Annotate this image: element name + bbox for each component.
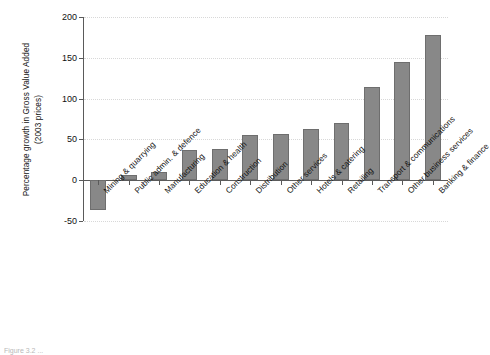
- gridline: [84, 58, 448, 59]
- y-tick-label: 0: [72, 175, 77, 185]
- x-tick-mark: [159, 180, 160, 185]
- x-tick-mark: [250, 180, 251, 185]
- x-tick-mark: [433, 180, 434, 185]
- x-tick-mark: [311, 180, 312, 185]
- plot-area: -50050100150200 Mining & quarryingPublic…: [83, 17, 448, 221]
- y-tick-label: 100: [62, 94, 77, 104]
- y-tick-label: -50: [64, 216, 77, 226]
- x-tick-label: Education & health: [193, 140, 249, 196]
- figure-caption: Figure 3.2 ...: [4, 347, 43, 355]
- y-axis-title: Percentage growth in Gross Value Added (…: [21, 10, 44, 230]
- y-tick-mark: [79, 221, 83, 222]
- x-tick-mark: [372, 180, 373, 185]
- x-tick-mark: [281, 180, 282, 185]
- gridline: [84, 99, 448, 100]
- y-axis-title-line-2: (2003 prices): [33, 95, 42, 144]
- y-tick-mark: [79, 17, 83, 18]
- y-tick-mark: [79, 180, 83, 181]
- y-tick-label: 200: [62, 12, 77, 22]
- y-axis-line: [83, 17, 84, 221]
- gridline: [84, 221, 448, 222]
- y-tick-mark: [79, 99, 83, 100]
- x-tick-label: Mining & quarrying: [102, 140, 157, 195]
- x-tick-mark: [98, 180, 99, 185]
- x-tick-mark: [189, 180, 190, 185]
- y-tick-label: 50: [67, 134, 77, 144]
- x-tick-mark: [220, 180, 221, 185]
- y-axis-title-line-1: Percentage growth in Gross Value Added: [22, 43, 31, 196]
- y-tick-mark: [79, 58, 83, 59]
- gridline: [84, 17, 448, 18]
- gridline: [84, 139, 448, 140]
- bar: [364, 87, 380, 180]
- x-tick-mark: [402, 180, 403, 185]
- y-tick-label: 150: [62, 53, 77, 63]
- y-tick-mark: [79, 139, 83, 140]
- x-tick-mark: [129, 180, 130, 185]
- x-tick-mark: [342, 180, 343, 185]
